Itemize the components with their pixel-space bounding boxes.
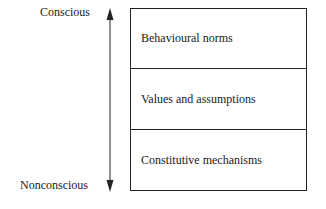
layer-label: Constitutive mechanisms xyxy=(141,153,262,168)
layer-behavioural-norms: Behavioural norms xyxy=(131,9,306,69)
layer-constitutive-mechanisms: Constitutive mechanisms xyxy=(131,130,306,190)
layer-label: Values and assumptions xyxy=(141,92,256,107)
layer-label: Behavioural norms xyxy=(141,31,233,46)
layers-box: Behavioural norms Values and assumptions… xyxy=(130,8,307,191)
layer-values-assumptions: Values and assumptions xyxy=(131,69,306,130)
